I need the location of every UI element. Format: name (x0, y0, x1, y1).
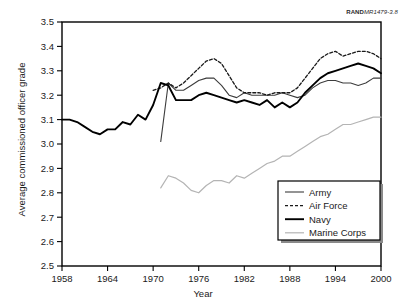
x-tick-label: 2000 (370, 273, 391, 284)
y-tick-label: 3.0 (41, 138, 54, 149)
y-tick-label: 2.7 (41, 212, 54, 223)
y-axis-label: Average commissioned officer grade (16, 35, 27, 245)
x-tick-label: 1988 (279, 273, 300, 284)
series-line-army (161, 78, 381, 141)
y-tick-label: 3.3 (41, 65, 54, 76)
chart-plot-area: 2.52.62.72.82.93.03.13.23.33.43.51958196… (0, 0, 406, 308)
x-tick-label: 1958 (51, 273, 72, 284)
y-tick-label: 3.2 (41, 90, 54, 101)
y-tick-label: 3.4 (41, 41, 54, 52)
x-tick-label: 1970 (143, 273, 164, 284)
x-tick-label: 1976 (188, 273, 209, 284)
x-tick-label: 1964 (97, 273, 118, 284)
y-tick-label: 2.9 (41, 163, 54, 174)
series-line-air-force (153, 51, 381, 95)
y-tick-label: 2.5 (41, 260, 54, 271)
x-tick-label: 1994 (325, 273, 346, 284)
x-axis-label: Year (0, 288, 406, 299)
y-tick-label: 3.1 (41, 114, 54, 125)
y-tick-label: 2.6 (41, 236, 54, 247)
legend-label-air-force: Air Force (309, 200, 348, 211)
legend-label-army: Army (309, 187, 331, 198)
y-tick-label: 3.5 (41, 16, 54, 27)
series-line-navy (62, 63, 381, 134)
figure-root: RANDMR1479-3.8 2.52.62.72.82.93.03.13.23… (0, 0, 406, 308)
legend-label-navy: Navy (309, 214, 331, 225)
x-tick-label: 1982 (234, 273, 255, 284)
line-chart: 2.52.62.72.82.93.03.13.23.33.43.51958196… (0, 0, 406, 308)
y-tick-label: 2.8 (41, 187, 54, 198)
legend-label-marine-corps: Marine Corps (309, 227, 366, 238)
